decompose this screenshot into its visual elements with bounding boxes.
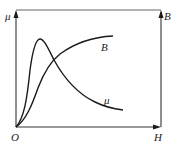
diagram-canvas bbox=[0, 0, 177, 147]
b-h-mu-diagram: μ B O H B μ bbox=[0, 0, 177, 147]
b-curve-label: B bbox=[101, 42, 108, 53]
right-axis-label-b: B bbox=[164, 11, 171, 22]
mu-curve-label: μ bbox=[104, 95, 110, 106]
x-axis-label-h: H bbox=[154, 132, 162, 143]
frame bbox=[16, 10, 161, 127]
b-axis-arrow-icon bbox=[159, 10, 164, 18]
b-curve bbox=[16, 36, 113, 127]
left-axis-label-mu: μ bbox=[5, 11, 11, 22]
mu-axis-arrow-icon bbox=[14, 10, 19, 18]
origin-label: O bbox=[11, 132, 19, 143]
h-axis-arrow-icon bbox=[153, 125, 161, 130]
